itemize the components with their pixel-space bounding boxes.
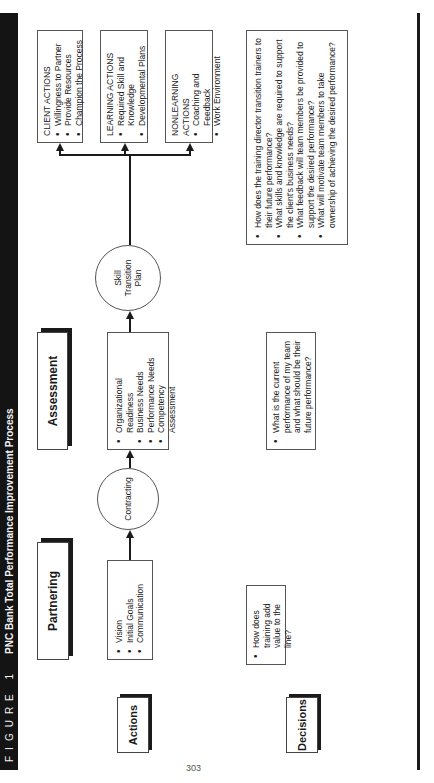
phase-partnering: Partnering	[37, 542, 69, 660]
figure-title-bar: FIGURE 1 PNC Bank Total Performance Impr…	[0, 13, 18, 770]
phase-assessment-label: Assessment	[46, 356, 60, 427]
list-item: How does the training director transitio…	[253, 37, 274, 238]
nonlearning-actions-box: Nonlearning Actions Coaching and Feedbac…	[165, 30, 213, 143]
client-actions-header: Client Actions	[42, 37, 53, 136]
list-item: How does training add value to the line?	[251, 592, 293, 658]
bottom-rule-divider	[417, 13, 420, 770]
arrow-right-icon	[121, 143, 129, 151]
list-item: Willingness to Partner	[53, 37, 64, 136]
arrow-right-icon	[126, 311, 134, 319]
list-item: What skills and knowledge are required t…	[274, 37, 295, 238]
list-item: Provide Resources	[63, 37, 74, 136]
nonlearning-actions-header: Nonlearning Actions	[170, 37, 191, 136]
row-label-decisions-text: Decisions	[296, 699, 308, 751]
figure-title: PNC Bank Total Performance Improvement P…	[4, 408, 15, 653]
transition-decision-box: How does the training director transitio…	[246, 30, 348, 245]
figure-diagram: FIGURE 1 PNC Bank Total Performance Impr…	[0, 0, 434, 783]
partnering-actions-box: Vision Initial Goals Communication	[107, 560, 153, 660]
contracting-node: Contracting	[97, 468, 159, 530]
list-item: What feedback will team members be provi…	[295, 37, 316, 238]
learning-actions-header: Learning Actions	[105, 37, 116, 136]
skill-transition-plan-label: Skill Transition Plan	[113, 258, 143, 298]
arrow-right-icon	[56, 143, 64, 151]
connector-line	[129, 319, 131, 332]
list-item: Champion the Process	[74, 37, 85, 136]
list-item: What is the current performance of my te…	[271, 339, 313, 443]
list-item: Coaching and Feedback	[191, 37, 212, 136]
list-item: Performance Needs	[146, 339, 157, 443]
page-number: 303	[186, 763, 206, 775]
figure-label: FIGURE 1	[4, 668, 15, 762]
row-label-actions: Actions	[117, 697, 149, 753]
assessment-actions-box: Organizational Readiness Business Needs …	[107, 332, 169, 450]
list-item: Initial Goals	[125, 567, 136, 653]
list-item: Developmental Plans	[137, 37, 148, 136]
list-item: Vision	[114, 567, 125, 653]
list-item: Business Needs	[135, 339, 146, 443]
phase-assessment: Assessment	[37, 332, 68, 450]
list-item: Required Skill and Knowledge	[116, 37, 137, 136]
connector-line	[129, 538, 131, 560]
list-item: Competency Assessment	[156, 339, 177, 443]
row-label-decisions: Decisions	[286, 697, 318, 753]
arrow-right-icon	[126, 450, 134, 458]
list-item: Organizational Readiness	[114, 339, 135, 443]
contracting-label: Contracting	[123, 477, 133, 520]
list-item: What will motivate team members to take …	[316, 37, 337, 238]
phase-partnering-label: Partnering	[46, 571, 60, 631]
learning-actions-box: Learning Actions Required Skill and Know…	[100, 30, 148, 143]
arrow-right-icon	[186, 143, 194, 151]
connector-line	[129, 155, 131, 245]
assessment-decision-box: What is the current performance of my te…	[266, 332, 316, 450]
client-actions-box: Client Actions Willingness to Partner Pr…	[37, 30, 83, 143]
connector-line	[129, 458, 131, 468]
partnering-decision-box: How does training add value to the line?	[246, 585, 286, 665]
list-item: Work Environment	[212, 37, 223, 136]
list-item: Communication	[135, 567, 146, 653]
arrow-right-icon	[126, 530, 134, 538]
row-label-actions-text: Actions	[127, 705, 139, 745]
skill-transition-plan-node: Skill Transition Plan	[95, 245, 161, 311]
